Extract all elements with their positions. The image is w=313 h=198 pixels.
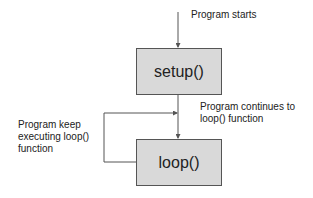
keep-annotation: Program keep executing loop() function (18, 119, 89, 155)
continues-text-1: Program continues to (200, 101, 295, 113)
continues-annotation: Program continues to loop() function (200, 101, 295, 125)
start-annotation: Program starts (191, 9, 257, 21)
keep-text-3: function (18, 143, 89, 155)
loop-label: loop() (159, 154, 200, 172)
loop-node: loop() (136, 139, 222, 186)
continues-text-2: loop() function (200, 113, 295, 125)
setup-label: setup() (154, 63, 204, 81)
keep-text-1: Program keep (18, 119, 89, 131)
keep-text-2: executing loop() (18, 131, 89, 143)
start-text: Program starts (191, 9, 257, 20)
setup-node: setup() (136, 48, 222, 95)
